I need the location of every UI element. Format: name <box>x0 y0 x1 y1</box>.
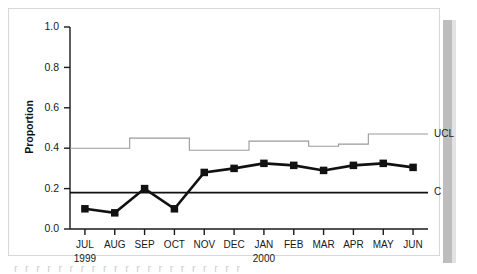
ucl-label: UCL <box>434 128 454 139</box>
data-point-marker <box>260 160 268 168</box>
y-tick-label-group: 0.00.20.40.60.81.0 <box>44 20 59 234</box>
y-axis: 0.00.20.40.60.81.0 <box>44 20 70 234</box>
x-tick-label: MAR <box>312 239 334 250</box>
figure-caption-fragment: r r r r r r r r r r r r r r r r r r r r … <box>14 262 434 274</box>
x-tick-label: AUG <box>104 239 126 250</box>
data-point-marker <box>201 169 209 177</box>
center-label: C <box>434 186 441 197</box>
data-point-marker <box>350 162 358 170</box>
proportion-series-line <box>85 163 413 212</box>
x-tick-label: OCT <box>164 239 185 250</box>
proportion-series-markers <box>81 160 417 217</box>
x-tick-label-group: JULAUGSEPOCTNOVDECJANFEBMARAPRMAYJUN <box>76 239 423 250</box>
x-tick-label: JUN <box>403 239 422 250</box>
x-tick-group <box>85 229 413 235</box>
x-axis: JULAUGSEPOCTNOVDECJANFEBMARAPRMAYJUN 199… <box>70 229 428 264</box>
ucl-step-line <box>70 134 428 150</box>
y-tick-label: 0.2 <box>44 182 59 194</box>
data-point-marker <box>290 162 298 170</box>
data-point-marker <box>320 167 328 175</box>
data-point-marker <box>141 185 149 193</box>
x-tick-label: SEP <box>135 239 155 250</box>
y-tick-group <box>64 27 70 229</box>
data-point-marker <box>111 209 119 217</box>
y-tick-label: 0.0 <box>44 222 59 234</box>
x-tick-label: DEC <box>224 239 245 250</box>
x-tick-label: APR <box>343 239 364 250</box>
data-point-marker <box>81 205 89 213</box>
data-point-marker <box>230 165 238 173</box>
data-point-marker <box>171 205 179 213</box>
x-tick-label: NOV <box>193 239 215 250</box>
x-tick-label: JUL <box>76 239 94 250</box>
y-tick-label: 1.0 <box>44 20 59 32</box>
x-tick-label: MAY <box>373 239 394 250</box>
y-tick-label: 0.6 <box>44 101 59 113</box>
data-point-marker <box>409 164 417 172</box>
data-point-marker <box>380 160 388 168</box>
y-axis-title: Proportion <box>23 100 35 154</box>
y-tick-label: 0.4 <box>44 141 59 153</box>
x-tick-label: FEB <box>284 239 304 250</box>
x-tick-label: JAN <box>254 239 273 250</box>
y-tick-label: 0.8 <box>44 61 59 73</box>
